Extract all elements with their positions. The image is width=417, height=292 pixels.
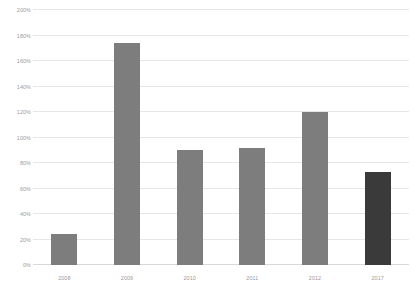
y-axis-tick-label: 180% bbox=[17, 33, 31, 39]
plot-area bbox=[33, 10, 409, 265]
y-axis-tick-label: 80% bbox=[20, 160, 31, 166]
y-axis-tick-label: 140% bbox=[17, 84, 31, 90]
y-axis-tick-label: 120% bbox=[17, 109, 31, 115]
y-axis-tick-label: 100% bbox=[17, 135, 31, 141]
x-axis: 200820092010201120122017 bbox=[33, 267, 409, 281]
bar-slot bbox=[284, 10, 347, 265]
y-axis-tick-label: 200% bbox=[17, 7, 31, 13]
y-axis-tick-label: 160% bbox=[17, 58, 31, 64]
x-axis-tick-label: 2010 bbox=[183, 275, 195, 281]
y-axis-tick-label: 40% bbox=[20, 211, 31, 217]
bar-series bbox=[33, 10, 409, 265]
bar-2017[interactable] bbox=[365, 172, 391, 265]
bar-2010[interactable] bbox=[177, 150, 203, 265]
x-axis-tick-label: 2009 bbox=[121, 275, 133, 281]
x-axis-tick-label: 2011 bbox=[246, 275, 258, 281]
bar-slot bbox=[96, 10, 159, 265]
bar-2008[interactable] bbox=[51, 234, 77, 265]
bar-slot bbox=[158, 10, 221, 265]
y-axis-tick-label: 20% bbox=[20, 237, 31, 243]
y-axis: 0%20%40%60%80%100%120%140%160%180%200% bbox=[0, 10, 31, 265]
y-axis-tick-label: 60% bbox=[20, 186, 31, 192]
bar-2011[interactable] bbox=[239, 148, 265, 265]
bar-2009[interactable] bbox=[114, 43, 140, 265]
x-axis-tick-label: 2012 bbox=[309, 275, 321, 281]
chart-title bbox=[0, 0, 417, 1]
y-axis-tick-label: 0% bbox=[23, 262, 31, 268]
x-axis-tick-label: 2008 bbox=[58, 275, 70, 281]
bar-2012[interactable] bbox=[302, 112, 328, 265]
bar-slot bbox=[221, 10, 284, 265]
bar-slot bbox=[346, 10, 409, 265]
bar-slot bbox=[33, 10, 96, 265]
x-axis-tick-label: 2017 bbox=[371, 275, 383, 281]
bar-chart: 0%20%40%60%80%100%120%140%160%180%200% 2… bbox=[0, 0, 417, 292]
